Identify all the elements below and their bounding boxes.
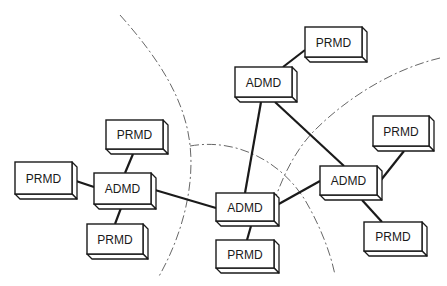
prmd-right-bottom-box[interactable]: PRMD — [364, 222, 427, 256]
link-admd-right-to-prmd-right-bottom — [362, 200, 382, 222]
box-bottom-face — [94, 204, 156, 209]
link-admd-top-to-admd-right — [275, 102, 344, 166]
box-side-face — [292, 67, 297, 102]
box-bottom-face — [87, 254, 148, 259]
admd-left-box[interactable]: ADMD — [94, 173, 156, 209]
prmd-left-top-box[interactable]: PRMD — [106, 120, 168, 154]
admd-center-box[interactable]: ADMD — [216, 193, 279, 226]
admd-label: ADMD — [331, 174, 367, 188]
box-bottom-face — [364, 251, 427, 256]
link-admd-left-to-prmd-far-left — [76, 181, 94, 187]
prmd-label: PRMD — [97, 233, 133, 247]
box-side-face — [151, 173, 156, 209]
box-bottom-face — [216, 268, 279, 273]
link-admd-right-to-prmd-right-top — [381, 151, 404, 180]
prmd-left-bottom-box[interactable]: PRMD — [87, 224, 148, 259]
link-admd-left-to-admd-center — [155, 190, 216, 208]
admd-label: ADMD — [227, 201, 263, 215]
admd-label: ADMD — [105, 182, 141, 196]
prmd-top-box[interactable]: PRMD — [305, 27, 367, 62]
prmd-label: PRMD — [383, 125, 419, 139]
box-bottom-face — [305, 57, 367, 62]
link-admd-left-to-prmd-left-bottom — [115, 208, 121, 224]
link-admd-center-to-admd-right — [277, 181, 320, 205]
box-bottom-face — [320, 195, 382, 200]
prmd-far-left-box[interactable]: PRMD — [15, 162, 77, 199]
domain-nodes: PRMDADMDPRMDADMDPRMDADMDPRMDADMDPRMDPRMD… — [15, 27, 434, 273]
box-side-face — [362, 27, 367, 62]
prmd-right-top-box[interactable]: PRMD — [373, 116, 434, 151]
prmd-label: PRMD — [375, 230, 411, 244]
link-admd-left-to-prmd-left-top — [125, 154, 133, 173]
box-bottom-face — [106, 149, 168, 154]
network-diagram: PRMDADMDPRMDADMDPRMDADMDPRMDADMDPRMDPRMD… — [0, 0, 447, 286]
admd-top-box[interactable]: ADMD — [235, 67, 297, 102]
box-bottom-face — [373, 146, 434, 151]
prmd-label: PRMD — [316, 36, 352, 50]
box-bottom-face — [216, 221, 279, 226]
box-bottom-face — [15, 194, 77, 199]
prmd-label: PRMD — [26, 172, 62, 186]
box-side-face — [429, 116, 434, 151]
admd-right-box[interactable]: ADMD — [320, 166, 382, 200]
box-bottom-face — [235, 97, 297, 102]
prmd-label: PRMD — [227, 248, 263, 262]
box-side-face — [72, 162, 77, 199]
link-admd-top-to-admd-center — [245, 102, 261, 193]
prmd-label: PRMD — [117, 128, 153, 142]
box-side-face — [143, 224, 148, 259]
link-admd-center-to-prmd-center-bottom — [247, 226, 251, 240]
link-admd-top-to-prmd-top — [283, 50, 305, 67]
admd-label: ADMD — [246, 76, 282, 90]
prmd-center-bottom-box[interactable]: PRMD — [216, 240, 279, 273]
